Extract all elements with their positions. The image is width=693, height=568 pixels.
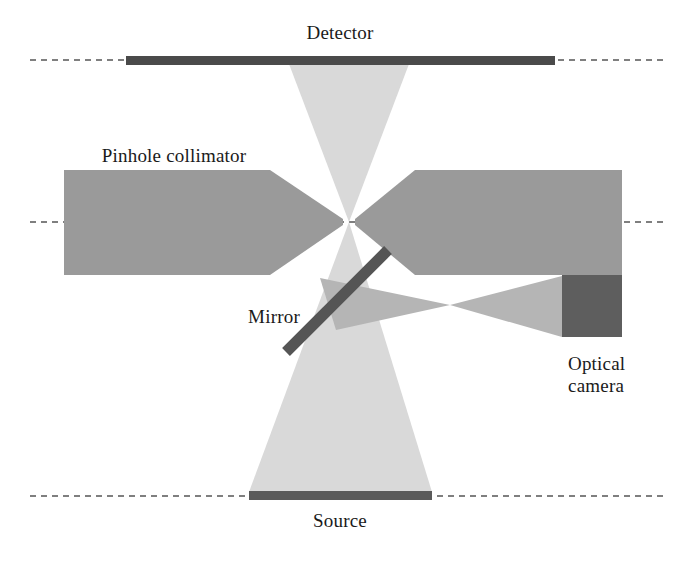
mirror-label: Mirror: [248, 306, 300, 328]
source-bar: [249, 491, 432, 500]
collimator-block-right: [355, 170, 622, 275]
optical-camera-block: [562, 275, 622, 337]
optical-camera-label-line1: Optical: [568, 353, 625, 375]
source-label: Source: [313, 510, 367, 532]
pinhole-collimator-label: Pinhole collimator: [102, 145, 247, 167]
detector-label: Detector: [306, 22, 373, 44]
optical-schematic-diagram: Detector Pinhole collimator Mirror Sourc…: [0, 0, 693, 568]
optical-camera-label: Optical camera: [568, 353, 625, 398]
detector-bar: [126, 56, 555, 65]
gamma-beam-group: [249, 64, 432, 492]
diagram-canvas: [0, 0, 693, 568]
optical-beam-diverging-segment: [450, 276, 562, 337]
collimator-block-left: [64, 170, 343, 275]
optical-camera-label-line2: camera: [568, 375, 625, 397]
